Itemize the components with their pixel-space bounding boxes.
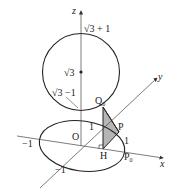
x-pos-one-label: 1 (124, 135, 129, 146)
leader-line (66, 97, 78, 108)
h-label: H (100, 150, 107, 161)
y-axis-label: y (157, 71, 163, 82)
z-bottom-label: √3 −1 (52, 87, 76, 98)
z-top-label: √3 + 1 (84, 23, 110, 34)
x-neg-one-label: −1 (22, 138, 33, 149)
q0-label: Q0 (95, 95, 105, 107)
x-axis-label: x (159, 158, 165, 169)
y-pos-one-label: 1 (89, 121, 94, 132)
p-label: P (118, 121, 124, 132)
center-point (79, 70, 82, 73)
x-axis (17, 136, 163, 158)
origin-label: O (72, 131, 79, 142)
z-center-label: √3 (64, 67, 75, 78)
y-neg-one-label: −1 (55, 164, 66, 175)
diagram-canvas: z √3 + 1 √3 √3 −1 y x O 1 1 −1 −1 Q0 P H… (0, 0, 174, 190)
p0-label: P0 (124, 151, 133, 163)
z-axis-label: z (71, 5, 76, 16)
